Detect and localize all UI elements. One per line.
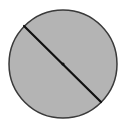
circle-diagram	[0, 0, 125, 130]
center-point	[61, 62, 64, 65]
